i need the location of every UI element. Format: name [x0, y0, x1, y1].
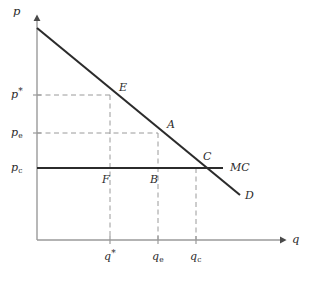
x-tick-sub-q-e: e	[159, 255, 163, 264]
axis-group	[37, 20, 281, 240]
y-tick-sup-p-star: *	[18, 86, 23, 96]
point-label-E: E	[119, 82, 127, 93]
x-tick-base-q-e: q	[152, 250, 159, 263]
y-tick-label-p-e: pe	[11, 127, 23, 138]
x-tick-base-q-c: q	[190, 250, 197, 263]
x-axis-label: q	[292, 234, 299, 246]
y-axis-label: p	[13, 6, 20, 18]
marginal-cost-curve-label: MC	[230, 162, 250, 173]
x-tick-label-q-c: qc	[190, 251, 201, 262]
y-tick-sub-p-e: e	[18, 131, 22, 140]
x-tick-label-q-star: q*	[104, 251, 116, 262]
demand-curve	[37, 28, 240, 195]
y-tick-base-p-e: p	[11, 126, 18, 139]
y-tick-label-p-star: p*	[11, 89, 23, 100]
point-label-F: F	[102, 174, 110, 185]
x-tick-sup-q-star: *	[111, 248, 116, 258]
economics-diagram: p q p* pe pc q* qe qc E A C B F D MC	[0, 0, 313, 281]
y-tick-base-p-star: p	[11, 88, 18, 101]
demand-curve-label: D	[245, 190, 254, 201]
diagram-canvas	[0, 0, 313, 281]
point-label-B: B	[150, 174, 158, 185]
x-tick-label-q-e: qe	[152, 251, 164, 262]
x-tick-base-q-star: q	[104, 250, 111, 263]
point-label-A: A	[167, 119, 175, 130]
y-tick-base-p-c: p	[11, 161, 18, 174]
y-tick-sub-p-c: c	[18, 166, 22, 175]
x-tick-sub-q-c: c	[197, 255, 201, 264]
y-tick-label-p-c: pc	[11, 162, 22, 173]
point-label-C: C	[203, 151, 211, 162]
